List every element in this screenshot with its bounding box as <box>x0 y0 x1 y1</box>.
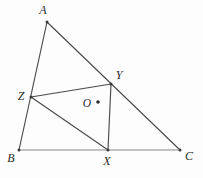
figure-canvas: ABCXYZO <box>0 0 203 178</box>
segment-ab <box>19 22 47 150</box>
segment-ac <box>47 22 180 150</box>
segment-yx <box>108 84 111 150</box>
segment-zx <box>31 97 108 150</box>
point-dot-a <box>46 21 49 24</box>
point-label-z: Z <box>18 89 25 103</box>
point-label-y: Y <box>116 68 124 82</box>
point-label-o: O <box>83 97 92 109</box>
point-label-c: C <box>185 149 194 163</box>
point-dot-b <box>18 149 21 152</box>
point-label-x: X <box>102 154 111 168</box>
geometry-figure: ABCXYZO <box>0 0 203 178</box>
point-dot-x <box>107 149 110 152</box>
point-dot-y <box>110 83 113 86</box>
segment-zy <box>31 84 111 97</box>
point-label-a: A <box>38 3 47 17</box>
point-label-b: B <box>7 151 15 165</box>
point-dot-o <box>96 100 100 104</box>
point-dot-z <box>30 96 33 99</box>
point-dot-c <box>179 149 182 152</box>
segments-layer <box>19 22 180 150</box>
